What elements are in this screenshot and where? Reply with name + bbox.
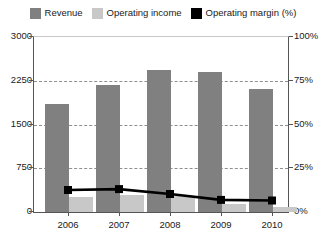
bar-income-2010 <box>273 207 297 212</box>
y-axis-right-tick-75: 75% <box>294 75 313 85</box>
chart-legend: Revenue Operating income Operating margi… <box>0 0 326 26</box>
legend-label-revenue: Revenue <box>45 8 83 18</box>
tick-x-2007 <box>119 212 120 216</box>
tick-y-right-25 <box>289 167 293 168</box>
tick-x-2006 <box>68 212 69 216</box>
y-axis-right-tick-100: 100% <box>294 31 318 41</box>
plot-area <box>33 36 289 213</box>
y-axis-right-tick-50: 50% <box>294 119 313 129</box>
bar-revenue-2006 <box>45 104 69 212</box>
bar-income-2006 <box>69 197 93 212</box>
tick-y-right-100 <box>289 36 293 37</box>
bar-income-2007 <box>120 195 144 213</box>
x-axis-label-2007: 2007 <box>108 220 129 230</box>
x-axis-label-2008: 2008 <box>159 220 180 230</box>
bar-revenue-2010 <box>249 89 273 212</box>
tick-x-2009 <box>221 212 222 216</box>
legend-item-operating-margin: Operating margin (%) <box>191 8 297 19</box>
x-axis-label-2010: 2010 <box>261 220 282 230</box>
x-axis-label-2009: 2009 <box>210 220 231 230</box>
legend-item-operating-income: Operating income <box>92 8 182 19</box>
tick-x-2010 <box>272 212 273 216</box>
x-axis-label-2006: 2006 <box>57 220 78 230</box>
legend-item-revenue: Revenue <box>30 8 83 19</box>
chart-container: Revenue Operating income Operating margi… <box>0 0 326 241</box>
tick-x-2008 <box>170 212 171 216</box>
tick-y-right-75 <box>289 80 293 81</box>
bar-income-2008 <box>171 196 195 212</box>
tick-y-right-50 <box>289 124 293 125</box>
legend-swatch-operating-margin <box>191 8 202 19</box>
bar-revenue-2008 <box>147 70 171 212</box>
legend-label-operating-margin: Operating margin (%) <box>206 8 297 18</box>
legend-swatch-operating-income <box>92 8 103 19</box>
legend-label-operating-income: Operating income <box>107 8 182 18</box>
bar-revenue-2009 <box>198 72 222 212</box>
y-axis-right-tick-25: 25% <box>294 163 313 173</box>
bar-revenue-2007 <box>96 85 120 212</box>
legend-swatch-revenue <box>30 8 41 19</box>
bar-income-2009 <box>222 204 246 212</box>
